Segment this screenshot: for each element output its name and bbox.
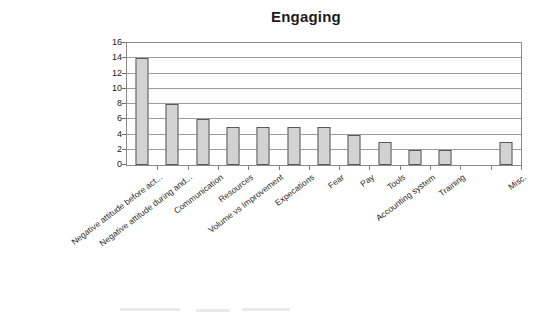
bar[interactable] [227,127,240,165]
x-axis-category-label: Training [437,172,467,198]
bar-slot [460,43,490,165]
y-axis-tick-label: 6 [100,114,122,123]
y-axis-tick-label: 8 [100,99,122,108]
bar[interactable] [317,127,330,165]
scan-artifact [120,308,180,311]
bar[interactable] [408,150,421,165]
bar[interactable] [439,150,452,165]
bar[interactable] [136,58,149,165]
y-axis-tick-labels: 1614121086420 [100,36,122,172]
x-axis-category-label: Fear [326,172,346,191]
y-axis-tick-label: 14 [100,53,122,62]
y-axis-tick-label: 12 [100,69,122,78]
chart-screenshot: Engaging 1614121086420 Negative attitude… [0,0,544,317]
bar-slot [127,43,157,165]
scan-artifact [196,309,230,312]
y-axis-tick-label: 16 [100,38,122,47]
bar-slot [339,43,369,165]
bar-slot [491,43,521,165]
x-axis-category-label: Pay [359,172,377,189]
bar-slot [279,43,309,165]
bar-slot [188,43,218,165]
y-axis-tick-label: 10 [100,84,122,93]
chart-title: Engaging [0,8,544,25]
bar-slot [309,43,339,165]
x-axis-category-label: Tools [385,172,407,192]
scan-artifact [242,308,290,311]
bar-slot [369,43,399,165]
y-axis-tick-label: 2 [100,145,122,154]
bar[interactable] [166,104,179,165]
bar-series [127,43,521,165]
bar-slot [400,43,430,165]
bar[interactable] [287,127,300,165]
bar-slot [248,43,278,165]
bar[interactable] [196,119,209,165]
x-axis-category-labels: Negative attitude before act...Negative … [0,166,544,317]
bar[interactable] [348,135,361,166]
x-axis-category-label: Misc. [506,172,528,192]
y-axis-tick-label: 4 [100,130,122,139]
bar-slot [430,43,460,165]
bar[interactable] [378,142,391,165]
bar[interactable] [499,142,512,165]
bar-slot [157,43,187,165]
bar-slot [218,43,248,165]
bar[interactable] [257,127,270,165]
